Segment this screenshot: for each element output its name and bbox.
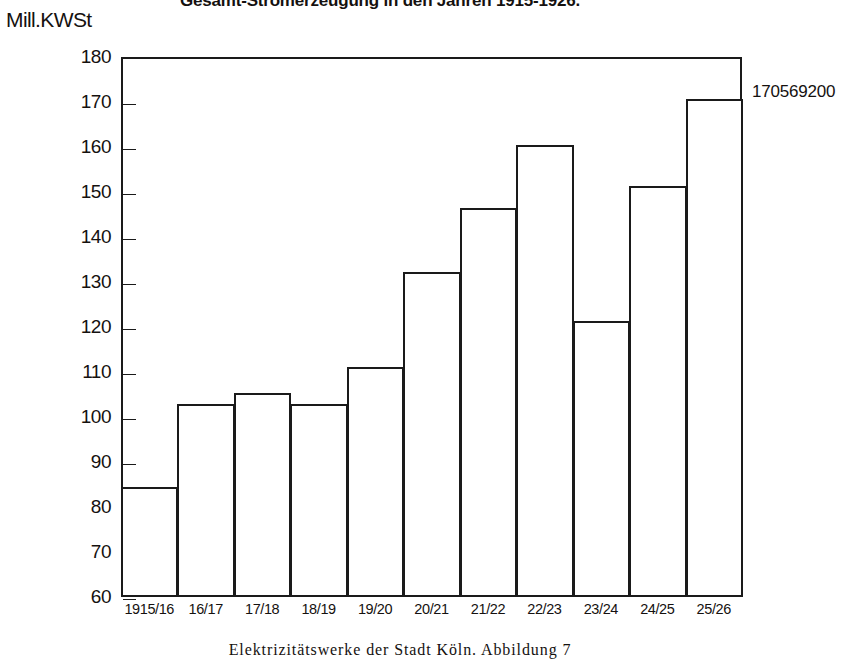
y-axis-tick-label: 170 xyxy=(41,91,111,113)
bar xyxy=(686,99,743,597)
bar xyxy=(290,404,347,597)
y-axis-labels: 60708090100110120130140150160170180 xyxy=(41,57,111,597)
bar xyxy=(403,272,460,597)
bar-series xyxy=(121,57,742,597)
bar xyxy=(516,145,573,597)
bar xyxy=(573,321,630,597)
y-axis-tick xyxy=(123,599,136,600)
y-axis-tick-label: 80 xyxy=(41,496,111,518)
y-axis-unit-label: Mill.KWSt xyxy=(6,8,92,32)
bar xyxy=(121,487,178,597)
bar xyxy=(629,186,686,597)
x-axis-labels: 1915/1616/1717/1818/1919/2020/2121/2222/… xyxy=(121,601,742,627)
y-axis-tick-label: 160 xyxy=(41,136,111,158)
y-axis-tick-label: 90 xyxy=(41,451,111,473)
figure-caption: Elektrizitätswerke der Stadt Köln. Abbil… xyxy=(0,641,800,659)
bar xyxy=(460,208,517,597)
bar xyxy=(347,367,404,597)
y-axis-tick-label: 130 xyxy=(41,271,111,293)
chart-title: Gesamt-Stromerzeugung in den Jahren 1915… xyxy=(0,0,760,11)
bar xyxy=(177,404,234,598)
y-axis-tick-label: 60 xyxy=(41,586,111,608)
y-axis-tick-label: 140 xyxy=(41,226,111,248)
x-axis-tick-label: 25/26 xyxy=(674,601,754,617)
value-annotation: 170569200 xyxy=(752,82,835,102)
y-axis-tick-label: 70 xyxy=(41,541,111,563)
y-axis-tick-label: 180 xyxy=(41,46,111,68)
bar xyxy=(234,393,291,597)
y-axis-tick-label: 110 xyxy=(41,361,111,383)
y-axis-tick-label: 150 xyxy=(41,181,111,203)
y-axis-tick-label: 120 xyxy=(41,316,111,338)
y-axis-tick-label: 100 xyxy=(41,406,111,428)
